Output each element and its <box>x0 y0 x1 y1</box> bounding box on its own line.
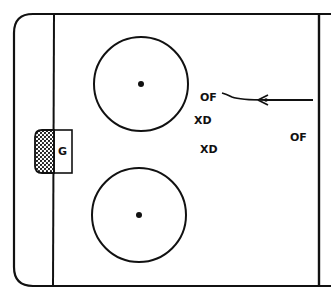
player-of-top: OF <box>200 91 217 104</box>
faceoff-circle-bottom <box>92 168 186 262</box>
faceoff-dot-top <box>138 81 144 87</box>
faceoff-circle-top <box>94 37 188 131</box>
player-of-right: OF <box>290 131 307 144</box>
pass-arrow <box>222 93 313 105</box>
player-xd-1: XD <box>194 114 212 127</box>
faceoff-dot-bottom <box>136 212 142 218</box>
rink-diagram: G OF XD XD OF <box>0 0 334 294</box>
goal-net <box>35 130 54 173</box>
goalie-label: G <box>58 145 67 158</box>
player-xd-2: XD <box>200 143 218 156</box>
